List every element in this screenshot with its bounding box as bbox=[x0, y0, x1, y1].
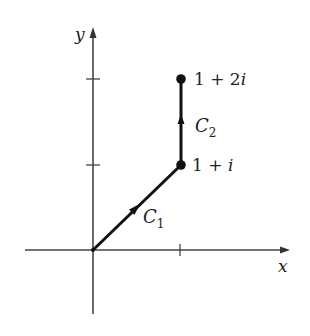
point-1-plus-2i: 1 + 2i bbox=[176, 69, 246, 89]
c2-direction-arrow-icon bbox=[178, 114, 185, 124]
x-axis: x bbox=[25, 244, 290, 276]
point-1-plus-i-label: 1 + i bbox=[192, 155, 233, 175]
y-axis-arrow-icon bbox=[90, 27, 97, 38]
point-1-plus-i: 1 + i bbox=[176, 155, 233, 175]
contour-diagram: x y C1 C2 1 + i 1 + 2i bbox=[0, 0, 310, 336]
c1-label: C1 bbox=[143, 206, 164, 231]
c2-label: C2 bbox=[195, 115, 216, 140]
x-axis-label: x bbox=[278, 256, 288, 276]
point-1-plus-2i-label: 1 + 2i bbox=[194, 69, 246, 89]
y-axis-label: y bbox=[74, 24, 85, 44]
origin-point bbox=[91, 248, 95, 252]
y-axis: y bbox=[74, 24, 100, 314]
x-axis-arrow-icon bbox=[280, 247, 290, 254]
curve-c2: C2 bbox=[178, 79, 217, 165]
curve-c1: C1 bbox=[93, 165, 181, 250]
